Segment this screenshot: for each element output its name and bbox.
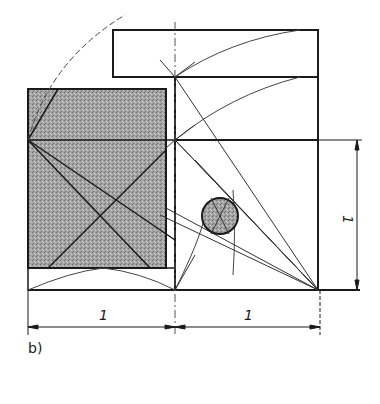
figure-caption: b): [28, 340, 42, 356]
horizontal-dimension: [28, 290, 320, 335]
dimension-label-bottom-right: 1: [244, 307, 253, 323]
top-rectangle: [113, 30, 318, 77]
geometric-construction-diagram: 1 1 1 b): [0, 0, 380, 404]
right-square-diagonals: [160, 60, 318, 290]
bottom-strip: [28, 268, 175, 290]
dimension-label-right: 1: [340, 215, 356, 224]
shaded-rectangle: [28, 89, 166, 268]
dimension-label-bottom-left: 1: [99, 307, 108, 323]
